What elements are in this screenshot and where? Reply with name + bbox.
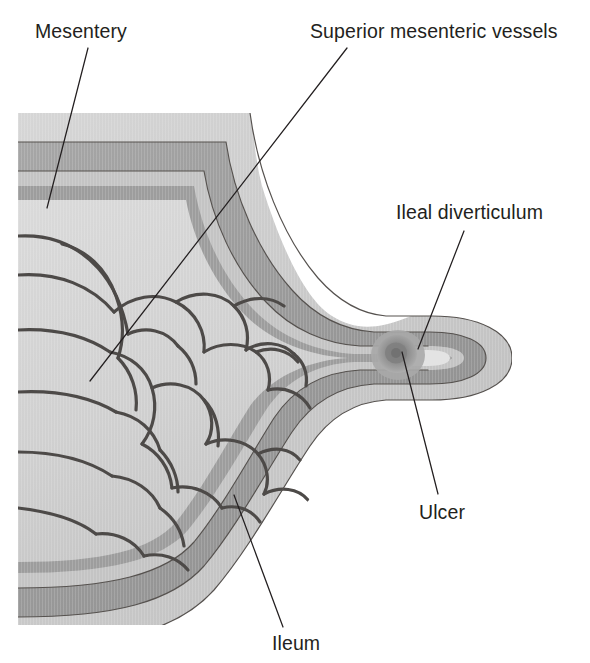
label-ileum: Ileum (272, 632, 320, 654)
ulcer (371, 330, 425, 380)
anatomy-drawing (18, 113, 512, 663)
label-mesentery: Mesentery (35, 20, 127, 42)
ileal-diverticulum-illustration: Mesentery Superior mesenteric vessels Il… (0, 0, 590, 663)
label-ulcer: Ulcer (419, 501, 465, 523)
label-superior-mesenteric-vessels: Superior mesenteric vessels (310, 20, 558, 42)
label-ileal-diverticulum: Ileal diverticulum (396, 201, 543, 223)
